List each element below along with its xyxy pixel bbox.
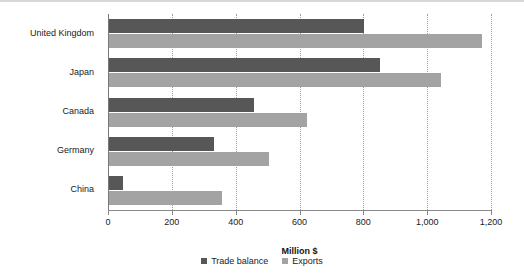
y-axis-label-japan: Japan (0, 67, 94, 77)
x-tick-label: 1,200 (466, 217, 516, 227)
x-tick-mark (491, 210, 492, 215)
legend-item-trade-balance[interactable]: Trade balance (201, 256, 268, 266)
x-tick-mark (427, 210, 428, 215)
legend-label-exports: Exports (292, 256, 323, 266)
y-axis-label-united-kingdom: United Kingdom (0, 28, 94, 38)
x-tick-label: 1,000 (402, 217, 452, 227)
gridline (491, 14, 492, 210)
y-axis-label-china: China (0, 184, 94, 194)
x-tick-mark (108, 210, 109, 215)
legend-swatch-exports-icon (282, 258, 288, 264)
bar-japan-trade-balance (109, 58, 380, 72)
legend-item-exports[interactable]: Exports (282, 256, 323, 266)
bar-germany-trade-balance (109, 137, 214, 151)
bar-united-kingdom-exports (109, 34, 482, 48)
x-tick-label: 200 (147, 217, 197, 227)
x-axis-title: Million $ (108, 246, 491, 256)
plot-area: 02004006008001,0001,200 Million $ (108, 14, 491, 210)
x-tick-label: 0 (83, 217, 133, 227)
x-tick-label: 800 (338, 217, 388, 227)
x-tick-label: 600 (275, 217, 325, 227)
bar-china-exports (109, 191, 222, 205)
x-tick-mark (363, 210, 364, 215)
bar-united-kingdom-trade-balance (109, 19, 364, 33)
legend-label-trade-balance: Trade balance (211, 256, 268, 266)
x-tick-mark (172, 210, 173, 215)
bar-china-trade-balance (109, 176, 123, 190)
y-axis-label-canada: Canada (0, 106, 94, 116)
bar-germany-exports (109, 152, 269, 166)
x-tick-mark (300, 210, 301, 215)
bar-canada-exports (109, 113, 307, 127)
legend-swatch-trade-balance-icon (201, 258, 207, 264)
bar-chart: 02004006008001,0001,200 Million $ United… (0, 0, 524, 275)
chart-legend: Trade balance Exports (0, 256, 524, 266)
top-divider (0, 0, 524, 2)
y-axis-label-germany: Germany (0, 145, 94, 155)
x-tick-label: 400 (211, 217, 261, 227)
bar-japan-exports (109, 73, 441, 87)
x-tick-mark (236, 210, 237, 215)
bar-canada-trade-balance (109, 98, 254, 112)
